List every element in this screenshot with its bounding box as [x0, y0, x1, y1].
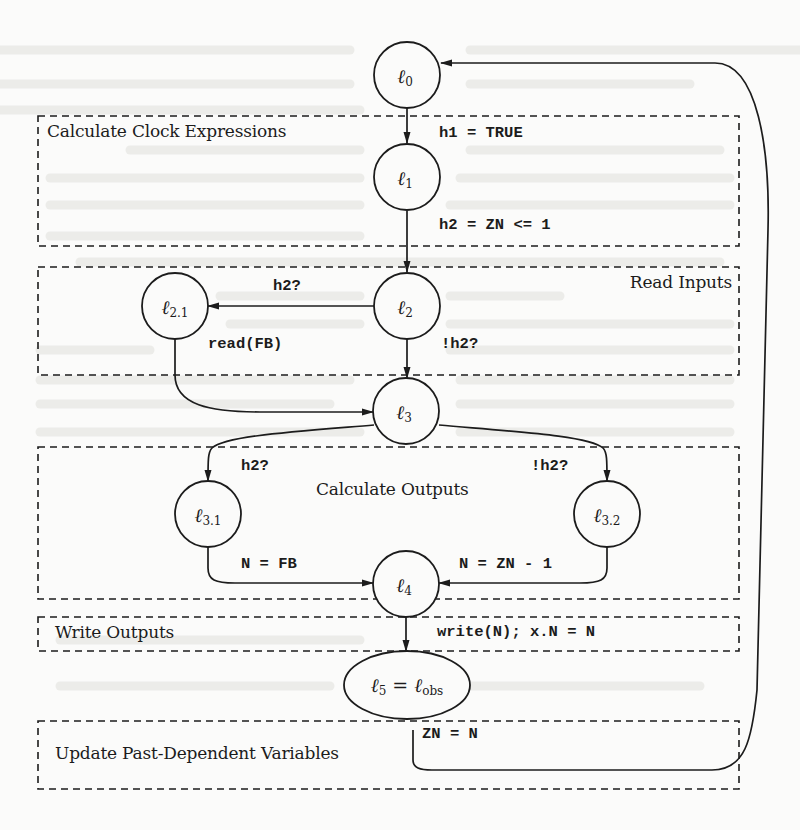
- edge-label-l32-l4: N = ZN - 1: [459, 555, 552, 573]
- region-label-calc-clock: Calculate Clock Expressions: [47, 121, 286, 141]
- node-label-l0: ℓ0: [397, 67, 413, 88]
- node-base: ℓ: [593, 504, 601, 526]
- node-subscript: 2.1: [169, 306, 188, 320]
- node-base: ℓ: [396, 401, 404, 423]
- edge-label-l1-l2: h2 = ZN <= 1: [439, 216, 551, 234]
- node-base: ℓ: [396, 574, 404, 596]
- edge-label-l3-l32: !h2?: [531, 457, 568, 475]
- node-label-l5-obs: ℓ5 = ℓobs: [371, 676, 444, 697]
- node-subscript-obs: obs: [422, 684, 443, 698]
- node-base: ℓ: [161, 296, 169, 318]
- region-label-read-inputs: Read Inputs: [630, 272, 732, 292]
- node-base: ℓ: [397, 167, 405, 189]
- edge-label-l2-l21: h2?: [273, 277, 301, 295]
- edge-label-l31-l4: N = FB: [241, 555, 297, 573]
- node-subscript: 2: [405, 306, 413, 320]
- node-base: ℓ: [397, 65, 405, 87]
- node-label-l2: ℓ2: [397, 298, 413, 319]
- node-subscript: 1: [405, 177, 413, 191]
- edge-l3-l32: [439, 425, 607, 481]
- node-label-l4: ℓ4: [396, 576, 412, 597]
- node-subscript: 3: [404, 411, 412, 425]
- node-base: ℓ: [397, 296, 405, 318]
- region-label-calc-outputs: Calculate Outputs: [316, 479, 469, 499]
- edge-l5-l0-feedback: [413, 63, 768, 770]
- edge-label-l3-l31: h2?: [241, 457, 269, 475]
- node-subscript: 0: [405, 75, 413, 89]
- edge-label-l4-l5: write(N); x.N = N: [437, 623, 595, 641]
- node-base: ℓ: [194, 504, 202, 526]
- edge-label-l5-l0: ZN = N: [422, 725, 478, 743]
- node-subscript: 5: [379, 684, 387, 698]
- node-subscript: 4: [404, 584, 412, 598]
- node-subscript: 3.2: [601, 514, 620, 528]
- edge-label-l0-l1: h1 = TRUE: [439, 124, 523, 142]
- node-subscript: 3.1: [202, 514, 221, 528]
- edge-l3-l31: [208, 425, 374, 481]
- region-label-update-past: Update Past-Dependent Variables: [55, 743, 339, 763]
- edge-label-l2-l3: !h2?: [441, 335, 478, 353]
- node-label-l31: ℓ3.1: [194, 506, 221, 527]
- equals-sign: =: [386, 674, 414, 696]
- region-label-write-outputs: Write Outputs: [55, 622, 174, 642]
- node-label-l32: ℓ3.2: [593, 506, 620, 527]
- node-label-l1: ℓ1: [397, 169, 413, 190]
- node-label-l21: ℓ2.1: [161, 298, 188, 319]
- node-label-l3: ℓ3: [396, 403, 412, 424]
- edge-label-l21-l3: read(FB): [208, 335, 282, 353]
- node-base: ℓ: [371, 674, 379, 696]
